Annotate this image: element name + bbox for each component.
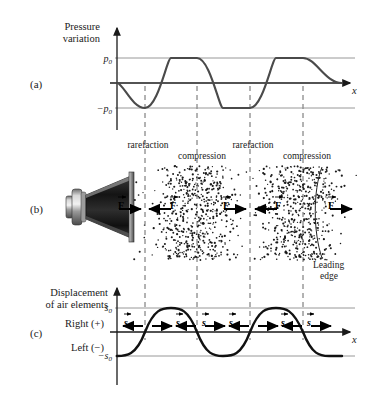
pressure-x-axis-label: x [351,85,357,96]
displacement-label-6: s [306,317,311,328]
pressure-tick-negative: −p0 [97,103,113,116]
displacement-axis-label-line1: Displacement [50,287,108,298]
region-label-compression-1: compression [178,151,226,161]
speaker-magnet [72,189,82,225]
direction-label-positive: Right (+) [65,318,104,330]
displacement-axis-label-line2: of air elements [46,299,108,310]
panel-letter-a: (a) [30,78,43,91]
displacement-label-4: s [228,317,233,328]
force-label-5: F [328,200,334,211]
displacement-tick-negative: −s0 [98,350,113,363]
speaker-voice-coil [81,192,86,222]
force-label-3: F [223,200,229,211]
leading-edge-label-line1: Leading [313,260,344,270]
displacement-label-2: s [175,317,180,328]
sound-wave-figure: (a) (b) (c) Pressure variation p0 −p0 x … [0,0,371,395]
panel-letter-c: (c) [30,327,43,340]
air-particle-field [133,165,357,261]
dashed-guide-lines [145,86,303,340]
displacement-tick-positive: s0 [105,302,113,315]
force-label-2: F [170,200,176,211]
panel-a [110,28,355,130]
region-label-compression-2: compression [283,151,331,161]
region-label-rarefaction-1: rarefaction [127,140,168,150]
panel-b [66,165,357,261]
force-label-1: F [118,200,124,211]
displacement-label-1: s [123,317,128,328]
speaker-cone [86,176,131,238]
panel-c [110,288,355,385]
speaker-rim [129,172,134,242]
panel-letter-b: (b) [30,203,43,216]
figure-canvas: (a) (b) (c) Pressure variation p0 −p0 x … [0,0,371,395]
pressure-axis-label-line1: Pressure [64,21,100,32]
pressure-axis-label-line2: variation [63,33,101,44]
leading-edge-label-line2: edge [320,271,338,281]
displacement-label-3: s [201,317,206,328]
force-label-4: F [275,200,281,211]
region-label-rarefaction-2: rarefaction [232,140,273,150]
displacement-x-axis-label: x [351,334,357,345]
pressure-tick-positive: p0 [103,53,113,66]
displacement-label-5: s [280,317,285,328]
